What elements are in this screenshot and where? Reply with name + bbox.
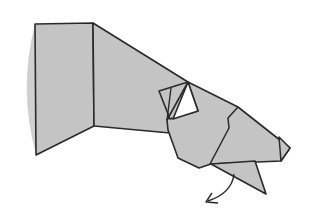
left-panel	[35, 23, 94, 155]
jaw-flap	[211, 161, 266, 194]
fold-arrow-icon	[208, 174, 234, 201]
diagram-canvas	[0, 0, 309, 216]
origami-diagram	[0, 0, 309, 216]
nose-tip	[279, 137, 290, 161]
